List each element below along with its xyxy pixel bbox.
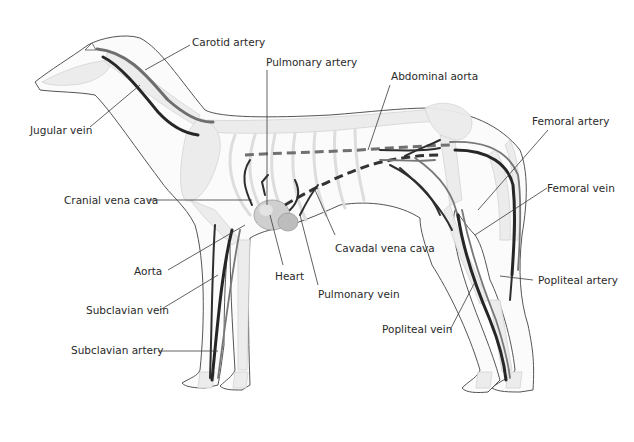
label-subclavian-artery: Subclavian artery [71,344,164,356]
label-femoral-vein: Femoral vein [547,182,615,194]
label-jugular-vein: Jugular vein [29,124,92,136]
label-popliteal-artery: Popliteal artery [538,274,618,286]
label-heart: Heart [275,270,304,282]
label-cranial-vena-cava: Cranial vena cava [64,194,158,206]
label-popliteal-vein: Popliteal vein [382,323,452,335]
label-carotid-artery: Carotid artery [192,36,265,48]
label-pulmonary-vein: Pulmonary vein [318,288,400,300]
label-pulmonary-artery: Pulmonary artery [266,56,357,68]
label-femoral-artery: Femoral artery [532,115,609,127]
label-cavadal-vena-cava: Cavadal vena cava [335,242,435,254]
dog-circulatory-diagram: Carotid artery Pulmonary artery Abdomina… [0,0,634,442]
label-abdominal-aorta: Abdominal aorta [391,70,478,82]
label-subclavian-vein: Subclavian vein [86,304,169,316]
label-aorta: Aorta [134,265,162,277]
